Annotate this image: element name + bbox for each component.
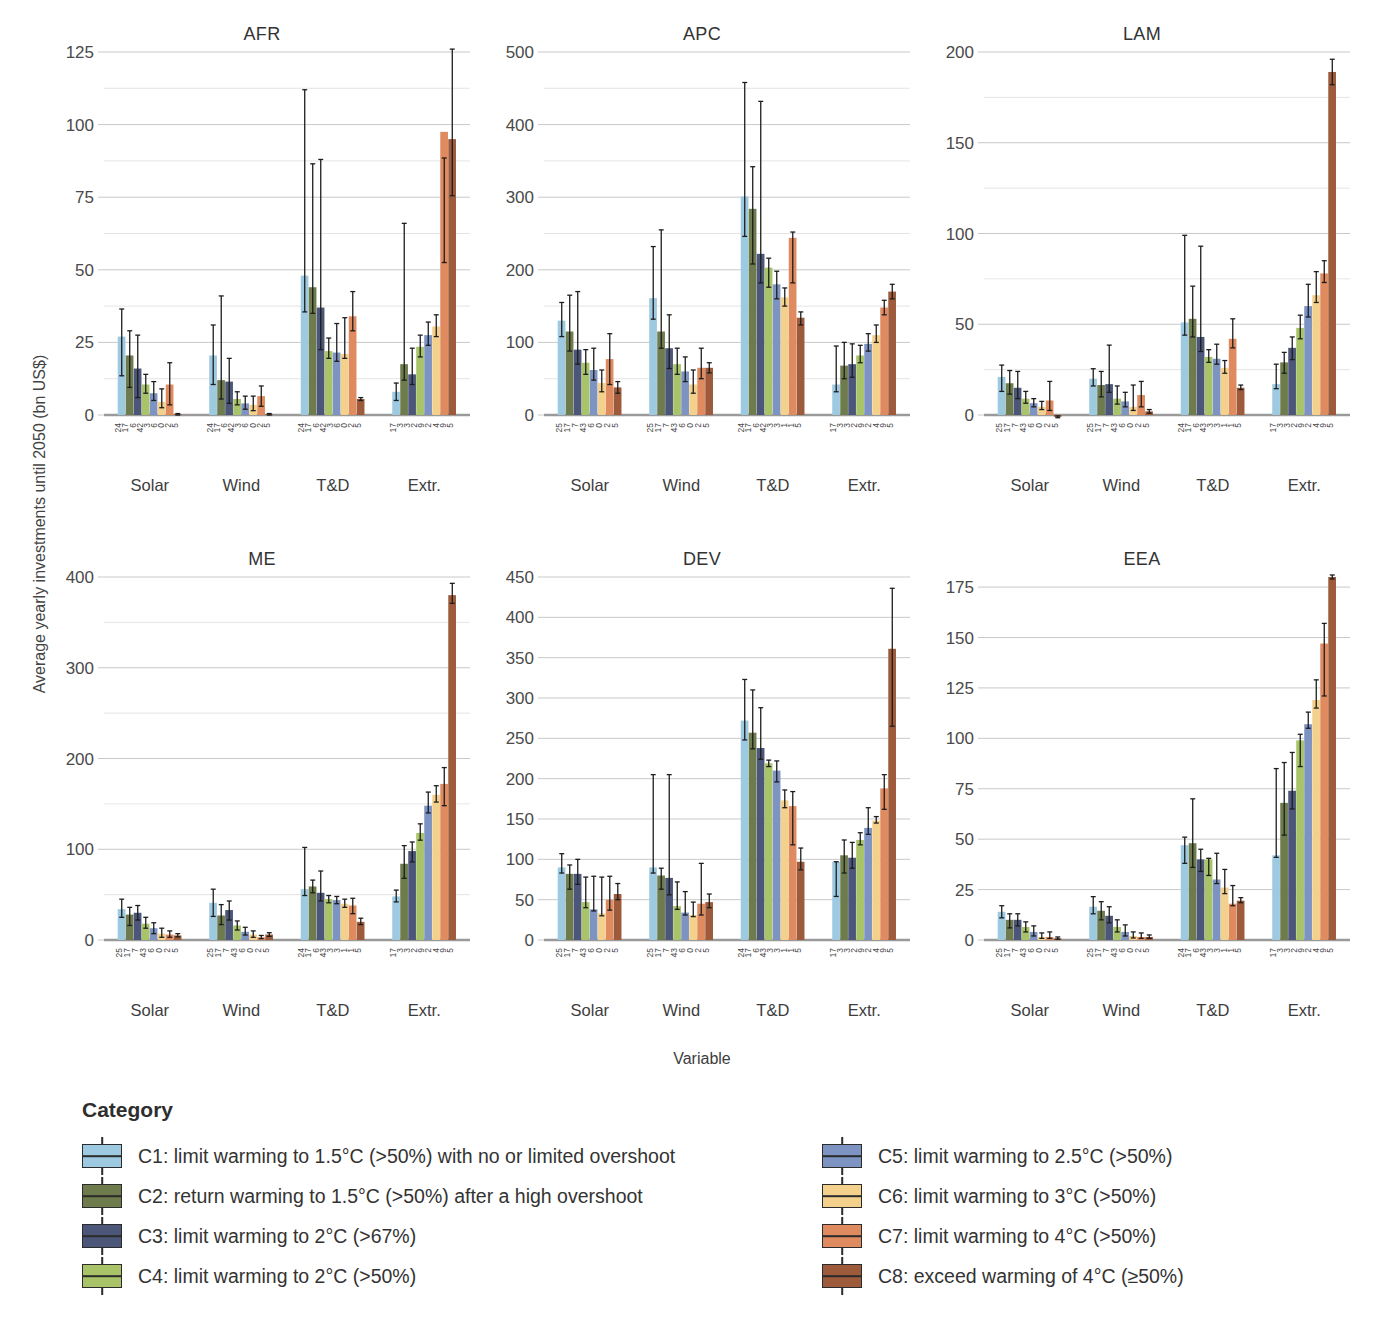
y-tick-label: 25 [955,881,974,900]
panel-title-dev: DEV [482,549,922,570]
bar[interactable] [448,595,456,940]
bar[interactable] [309,886,317,940]
bar[interactable] [1272,855,1280,940]
x-tick-count-label: 5 [353,423,363,428]
bar[interactable] [880,788,888,940]
bar[interactable] [689,915,697,940]
bar[interactable] [1221,888,1229,940]
y-tick-label: 100 [946,729,974,748]
bar[interactable] [781,297,789,415]
bar[interactable] [1304,306,1312,415]
bar[interactable] [424,806,432,940]
bar[interactable] [357,399,365,415]
error-bar [683,892,688,915]
bar[interactable] [341,354,349,415]
x-group-label: Wind [663,476,701,494]
bar[interactable] [408,851,416,940]
bar[interactable] [1221,368,1229,415]
bar[interactable] [1229,904,1237,940]
bar[interactable] [325,351,333,415]
bar[interactable] [590,909,598,940]
legend-item-c1[interactable]: C1: limit warming to 1.5°C (>50%) with n… [82,1136,822,1176]
bar[interactable] [1237,388,1245,415]
bar[interactable] [424,335,432,415]
bar[interactable] [416,833,424,940]
bar[interactable] [705,368,713,415]
bar[interactable] [797,318,805,415]
legend-item-c6[interactable]: C6: limit warming to 3°C (>50%) [822,1176,1362,1216]
legend-column-left: C1: limit warming to 1.5°C (>50%) with n… [82,1136,822,1296]
bar[interactable] [1296,328,1304,415]
bar[interactable] [1296,740,1304,940]
bar[interactable] [301,889,309,940]
bar[interactable] [392,896,400,940]
bar[interactable] [1312,700,1320,940]
y-tick-label: 0 [965,931,974,950]
y-tick-label: 50 [515,891,534,910]
x-tick-count-label: 5 [1325,948,1335,953]
bar[interactable] [341,904,349,940]
bar[interactable] [749,733,757,940]
bar[interactable] [1320,273,1328,415]
legend-swatch-c1 [82,1144,122,1168]
y-tick-label: 75 [955,780,974,799]
bar[interactable] [757,748,765,940]
bar[interactable] [773,284,781,415]
bar[interactable] [872,821,880,940]
error-bar [259,935,264,938]
legend-item-c2[interactable]: C2: return warming to 1.5°C (>50%) after… [82,1176,822,1216]
legend-label-c5: C5: limit warming to 2.5°C (>50%) [878,1145,1172,1168]
bar[interactable] [781,800,789,940]
legend-item-c5[interactable]: C5: limit warming to 2.5°C (>50%) [822,1136,1362,1176]
bar[interactable] [864,828,872,940]
bar[interactable] [1312,295,1320,415]
bar[interactable] [797,862,805,940]
error-bar [1182,235,1187,335]
x-tick-count-label: 5 [170,423,180,428]
bar[interactable] [598,913,606,940]
bar[interactable] [1205,357,1213,415]
bar[interactable] [888,292,896,415]
bar[interactable] [440,784,448,940]
bar[interactable] [1288,791,1296,940]
bar[interactable] [872,335,880,415]
legend-item-c3[interactable]: C3: limit warming to 2°C (>67%) [82,1216,822,1256]
x-group-label: T&D [316,476,349,494]
x-group-label: Extr. [848,476,881,494]
bar[interactable] [1181,322,1189,415]
bar[interactable] [741,721,749,940]
bar[interactable] [614,894,622,940]
legend-item-c8[interactable]: C8: exceed warming of 4°C (≥50%) [822,1256,1362,1296]
bar[interactable] [773,771,781,940]
bar[interactable] [432,795,440,940]
bar[interactable] [1304,724,1312,940]
bar[interactable] [1229,339,1237,415]
bar[interactable] [681,913,689,940]
bar[interactable] [1213,359,1221,415]
bar[interactable] [673,906,681,940]
bar[interactable] [856,840,864,940]
bar[interactable] [856,355,864,415]
y-tick-label: 200 [506,261,534,280]
bar[interactable] [880,308,888,415]
legend-item-c7[interactable]: C7: limit warming to 4°C (>50%) [822,1216,1362,1256]
bar[interactable] [864,344,872,415]
error-bar [691,902,696,917]
bar[interactable] [333,900,341,940]
bar[interactable] [325,899,333,940]
bar[interactable] [649,867,657,940]
y-tick-label: 100 [66,840,94,859]
error-bar [1055,416,1060,418]
bar[interactable] [432,326,440,415]
bar[interactable] [1213,880,1221,941]
bar[interactable] [848,858,856,940]
bar[interactable] [1237,901,1245,940]
x-axis-label: Variable [42,1050,1362,1068]
bar[interactable] [765,763,773,940]
legend-item-c4[interactable]: C4: limit warming to 2°C (>50%) [82,1256,822,1296]
bar[interactable] [765,268,773,415]
x-tick-count-label: 5 [1141,423,1151,428]
bar[interactable] [1328,72,1336,415]
bar[interactable] [1328,577,1336,940]
bar[interactable] [558,867,566,940]
